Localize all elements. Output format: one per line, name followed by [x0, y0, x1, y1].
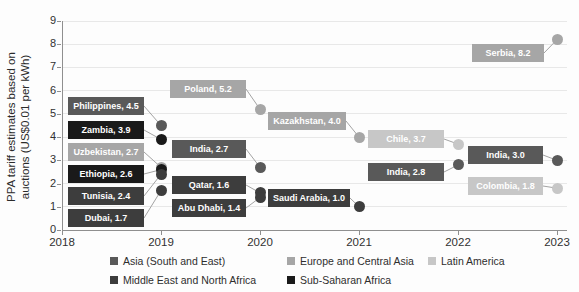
- y-tick-label: 5: [34, 107, 56, 119]
- point-label-box: Chile, 3.7: [368, 130, 444, 148]
- data-point: [156, 120, 167, 131]
- data-point: [552, 155, 563, 166]
- y-tick-label: 3: [34, 153, 56, 165]
- data-point: [255, 192, 266, 203]
- y-tick-label: 1: [34, 200, 56, 212]
- legend-swatch: [428, 257, 436, 265]
- point-label-box: Serbia, 8.2: [472, 44, 544, 62]
- legend-label: Latin America: [441, 255, 505, 267]
- point-label-box: Colombia, 1.8: [468, 177, 543, 195]
- y-axis-line: [62, 21, 63, 230]
- point-label-box: India, 2.7: [172, 140, 246, 158]
- gridline: [62, 67, 567, 68]
- point-label-box: Qatar, 1.6: [172, 176, 246, 194]
- data-point: [552, 183, 563, 194]
- x-axis-line: [62, 230, 567, 231]
- y-tick-mark: [57, 230, 61, 231]
- x-tick-mark: [161, 231, 162, 235]
- data-point: [453, 139, 464, 150]
- legend-item: Asia (South and East): [110, 255, 225, 267]
- data-point: [156, 169, 167, 180]
- legend-swatch: [110, 257, 118, 265]
- legend-item: Sub-Saharan Africa: [287, 274, 391, 286]
- legend-swatch: [110, 276, 118, 284]
- x-tick-label: 2023: [535, 236, 579, 248]
- x-tick-label: 2021: [337, 236, 381, 248]
- legend-swatch: [287, 257, 295, 265]
- point-label-box: Ethiopia, 2.6: [68, 165, 144, 183]
- point-label-box: Saudi Arabia, 1.0: [268, 189, 350, 207]
- legend-label: Sub-Saharan Africa: [300, 274, 391, 286]
- point-label-box: Kazakhstan, 4.0: [268, 112, 346, 130]
- data-point: [354, 132, 365, 143]
- y-tick-mark: [57, 184, 61, 185]
- y-tick-label: 0: [34, 223, 56, 235]
- y-tick-label: 6: [34, 84, 56, 96]
- x-tick-label: 2018: [40, 236, 84, 248]
- x-tick-mark: [458, 231, 459, 235]
- legend-label: Middle East and North Africa: [123, 274, 256, 286]
- data-point: [354, 201, 365, 212]
- y-tick-mark: [57, 44, 61, 45]
- x-tick-mark: [62, 231, 63, 235]
- y-tick-label: 8: [34, 37, 56, 49]
- point-label-box: Uzbekistan, 2.7: [68, 143, 144, 161]
- point-label-box: India, 3.0: [468, 146, 543, 164]
- y-tick-label: 4: [34, 130, 56, 142]
- legend-label: Asia (South and East): [123, 255, 225, 267]
- point-label-box: Abu Dhabi, 1.4: [172, 199, 246, 217]
- y-tick-mark: [57, 114, 61, 115]
- y-tick-label: 9: [34, 14, 56, 26]
- y-tick-label: 2: [34, 177, 56, 189]
- x-tick-mark: [557, 231, 558, 235]
- x-tick-mark: [260, 231, 261, 235]
- y-tick-label: 7: [34, 60, 56, 72]
- y-axis-title-line2: auctions (US$0.01 per kWh): [19, 15, 33, 239]
- y-tick-mark: [57, 137, 61, 138]
- y-axis-title-line1: PPA tariff estimates based on: [5, 15, 19, 239]
- legend-label: Europe and Central Asia: [300, 255, 414, 267]
- data-point: [255, 162, 266, 173]
- point-label-box: Zambia, 3.9: [68, 121, 144, 139]
- data-point: [156, 134, 167, 145]
- point-label-box: Poland, 5.2: [170, 80, 246, 98]
- gridline: [62, 90, 567, 91]
- data-point: [255, 104, 266, 115]
- x-tick-mark: [359, 231, 360, 235]
- y-axis-title: PPA tariff estimates based on auctions (…: [5, 15, 35, 239]
- x-tick-label: 2022: [436, 236, 480, 248]
- x-tick-label: 2020: [238, 236, 282, 248]
- y-tick-mark: [57, 160, 61, 161]
- point-label-box: Philippines, 4.5: [68, 97, 144, 115]
- legend-item: Europe and Central Asia: [287, 255, 414, 267]
- point-label-box: Tunisia, 2.4: [68, 187, 144, 205]
- y-tick-mark: [57, 207, 61, 208]
- point-label-box: India, 2.8: [368, 163, 444, 181]
- data-point: [156, 185, 167, 196]
- chart-figure: PPA tariff estimates based on auctions (…: [0, 0, 579, 292]
- legend-item: Latin America: [428, 255, 505, 267]
- legend-item: Middle East and North Africa: [110, 274, 256, 286]
- legend-swatch: [287, 276, 295, 284]
- gridline: [62, 21, 567, 22]
- y-tick-mark: [57, 67, 61, 68]
- y-tick-mark: [57, 91, 61, 92]
- x-tick-label: 2019: [139, 236, 183, 248]
- data-point: [552, 34, 563, 45]
- point-label-box: Dubai, 1.7: [68, 209, 144, 227]
- data-point: [453, 159, 464, 170]
- y-tick-mark: [57, 21, 61, 22]
